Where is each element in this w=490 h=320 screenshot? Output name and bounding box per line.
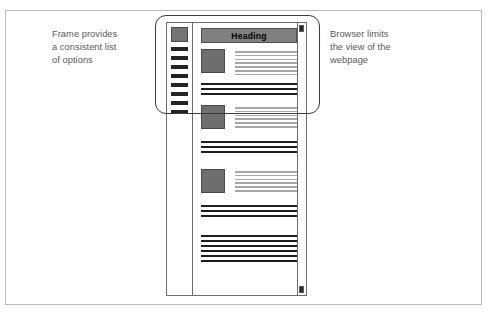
article-image-placeholder [201,49,225,73]
article-image-placeholder [201,169,225,193]
rule-line [201,93,297,95]
text-line [235,182,297,184]
text-line [235,74,297,76]
rule-line [201,235,297,237]
sidebar-frame [167,23,193,295]
sidebar-item-5[interactable] [171,82,188,88]
page-heading-band: Heading [201,28,297,43]
site-logo-placeholder-icon [171,27,188,42]
text-line [235,118,297,120]
rule-line [201,255,297,257]
article-text-lines [235,107,297,130]
article-divider-rules [201,141,297,156]
scroll-down-arrow-icon[interactable] [299,286,304,293]
rule-line [201,240,297,242]
text-line [235,122,297,124]
page-content-area: Heading [193,23,297,295]
article-text-lines [235,51,297,77]
annotation-browser-limits-view: Browser limits the view of the webpage [330,28,455,68]
page-title: Heading [231,31,266,41]
article-image-placeholder [201,105,225,129]
text-line [235,55,297,57]
rule-line [201,260,297,262]
rule-line [201,210,297,212]
footer-rules [201,235,297,265]
text-line [235,59,297,61]
rule-line [201,146,297,148]
scroll-up-arrow-icon[interactable] [299,25,304,32]
rule-line [201,88,297,90]
rule-line [201,215,297,217]
sidebar-item-7[interactable] [171,100,188,106]
sidebar-item-2[interactable] [171,55,188,61]
page-scrollbar[interactable] [297,23,306,295]
text-line [235,107,297,109]
webpage-mock: Heading [166,22,307,296]
text-line [235,190,297,192]
text-line [235,126,297,128]
rule-line [201,205,297,207]
rule-line [201,250,297,252]
text-line [235,175,297,177]
text-line [235,62,297,64]
text-line [235,66,297,68]
text-line [235,115,297,117]
sidebar-item-6[interactable] [171,91,188,97]
rule-line [201,141,297,143]
text-line [235,70,297,72]
rule-line [201,245,297,247]
annotation-frame-provides-list: Frame provides a consistent list of opti… [52,28,152,68]
rule-line [201,83,297,85]
text-line [235,171,297,173]
sidebar-item-8[interactable] [171,109,188,115]
sidebar-item-4[interactable] [171,73,188,79]
text-line [235,179,297,181]
article-text-lines [235,171,297,194]
sidebar-item-3[interactable] [171,64,188,70]
text-line [235,186,297,188]
rule-line [201,151,297,153]
text-line [235,51,297,53]
article-divider-rules [201,205,297,220]
article-divider-rules [201,83,297,98]
sidebar-item-1[interactable] [171,46,188,52]
text-line [235,111,297,113]
